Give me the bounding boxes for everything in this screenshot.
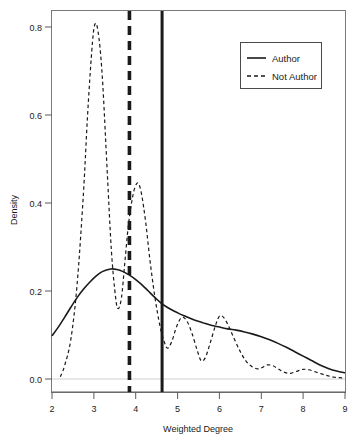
density-curve-author	[52, 269, 345, 373]
x-axis-ticks	[52, 392, 345, 399]
x-axis-title: Weighted Degree	[163, 424, 233, 434]
x-axis-tick-labels: 2 3 4 5 6 7 8 9	[49, 404, 347, 414]
x-tick-label: 8	[301, 404, 306, 414]
x-tick-label: 7	[259, 404, 264, 414]
legend-label-author: Author	[272, 53, 300, 64]
y-tick-label: 0.2	[29, 287, 42, 297]
y-tick-label: 0.4	[29, 199, 42, 209]
x-tick-label: 3	[91, 404, 96, 414]
legend: Author Not Author	[241, 43, 322, 89]
y-axis-title: Density	[9, 194, 19, 225]
x-tick-label: 6	[217, 404, 222, 414]
legend-box	[241, 43, 322, 89]
y-tick-label: 0.6	[29, 111, 42, 121]
x-tick-label: 2	[49, 404, 54, 414]
y-axis-ticks	[45, 27, 52, 379]
chart-canvas: 0.8 0.6 0.4 0.2 0.0 Density 2 3 4 5 6 7	[0, 0, 364, 440]
y-tick-label: 0.8	[29, 23, 42, 33]
density-plot-figure: 0.8 0.6 0.4 0.2 0.0 Density 2 3 4 5 6 7	[0, 0, 364, 440]
legend-label-not-author: Not Author	[272, 71, 317, 82]
y-tick-label: 0.0	[29, 375, 42, 385]
x-tick-label: 4	[133, 404, 138, 414]
x-tick-label: 9	[342, 404, 347, 414]
x-tick-label: 5	[175, 404, 180, 414]
y-axis-tick-labels: 0.8 0.6 0.4 0.2 0.0	[29, 23, 42, 385]
